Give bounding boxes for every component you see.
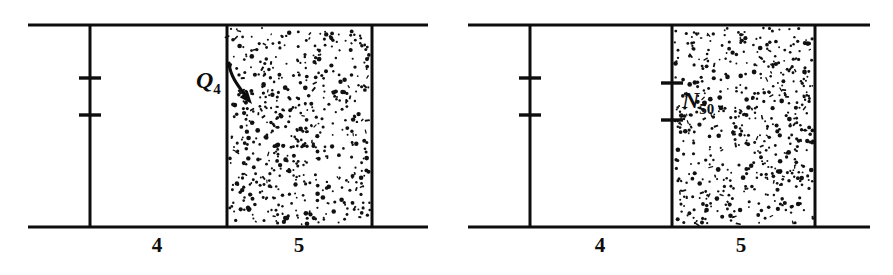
right-diagram: N5045 [468,25,870,257]
variable-label: N50 [681,87,714,117]
segment-label-5: 5 [294,233,305,257]
segment-label-5: 5 [736,233,747,257]
figure-root: Q445N5045 [0,0,893,275]
stipple-region [224,27,371,226]
stipple-region [673,27,814,227]
left-diagram: Q445 [28,25,428,257]
variable-label: Q4 [196,67,221,97]
segment-label-4: 4 [152,233,163,257]
segment-label-4: 4 [595,233,606,257]
technical-diagram: Q445N5045 [0,0,893,275]
